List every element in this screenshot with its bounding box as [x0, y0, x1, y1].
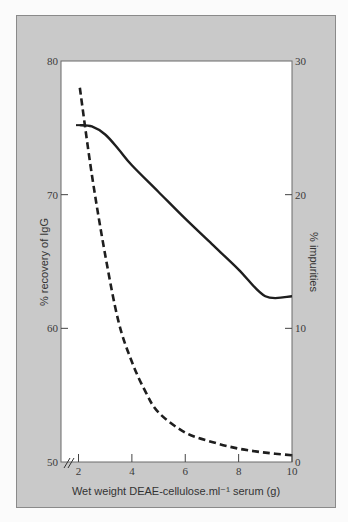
y2-tick-label: 30	[295, 55, 307, 67]
x-tick-label: 4	[129, 465, 135, 477]
plot-area	[61, 61, 292, 462]
y-tick-label: 50	[47, 456, 59, 468]
y2-axis-title: % impurities	[308, 232, 320, 292]
y2-tick-label: 10	[295, 322, 307, 334]
x-tick-label: 8	[236, 465, 242, 477]
y2-tick-label: 20	[295, 189, 307, 201]
x-tick-label: 6	[183, 465, 189, 477]
y-tick-label: 80	[47, 55, 59, 67]
x-tick-label: 2	[76, 465, 82, 477]
y2-tick-label: 0	[295, 456, 301, 468]
x-axis-title: Wet weight DEAE-cellulose.ml⁻¹ serum (g)	[72, 485, 280, 497]
chart: 246810506070800102030 Wet weight DEAE-ce…	[0, 0, 348, 522]
y-axis-title: % recovery of IgG	[38, 218, 50, 306]
y-tick-label: 70	[47, 189, 59, 201]
y-tick-label: 60	[47, 322, 59, 334]
